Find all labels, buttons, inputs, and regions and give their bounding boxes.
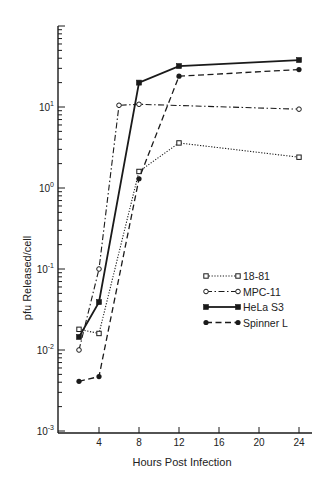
data-point-spinner-l — [176, 74, 181, 79]
y-tick-label: 10-3 — [37, 424, 54, 437]
x-tick-label: 8 — [136, 437, 142, 448]
data-point-hela-s3 — [177, 64, 182, 69]
y-tick-exponent: -3 — [48, 424, 54, 431]
data-point-spinner-l — [96, 374, 101, 379]
y-tick-exponent: -2 — [48, 343, 54, 350]
legend-marker-hela-s3 — [236, 305, 241, 310]
data-point-18-81 — [97, 331, 101, 335]
legend-marker-spinner-l — [235, 320, 240, 325]
data-point-18-81 — [297, 155, 301, 159]
data-point-spinner-l — [76, 379, 81, 384]
data-point-18-81 — [177, 141, 181, 145]
y-tick-base: 10 — [37, 264, 49, 275]
data-point-mpc-11 — [297, 107, 302, 112]
legend-marker-spinner-l — [203, 320, 208, 325]
x-tick-label: 16 — [213, 437, 225, 448]
y-axis-label: pfu Released/cell — [21, 236, 33, 320]
x-ticks: 4812162024 — [96, 427, 305, 448]
legend-marker-mpc-11 — [236, 289, 241, 294]
y-tick-exponent: 1 — [50, 100, 54, 107]
data-point-hela-s3 — [97, 300, 102, 305]
legend-marker-mpc-11 — [204, 289, 209, 294]
legend-marker-18-81 — [236, 274, 240, 278]
y-tick-label: 10-2 — [37, 343, 54, 356]
series-layer — [76, 58, 301, 384]
y-tick-base: 10 — [37, 345, 49, 356]
legend-marker-18-81 — [204, 274, 208, 278]
y-tick-label: 101 — [39, 100, 54, 113]
legend: 18-81MPC-11HeLa S3Spinner L — [203, 270, 288, 329]
y-tick-label: 10-1 — [37, 262, 54, 275]
data-point-18-81 — [77, 327, 81, 331]
y-tick-base: 10 — [37, 426, 49, 437]
legend-label-spinner-l: Spinner L — [243, 317, 288, 329]
legend-item-spinner-l: Spinner L — [203, 317, 288, 329]
series-spinner-l — [76, 67, 301, 384]
legend-marker-hela-s3 — [204, 305, 209, 310]
y-tick-label: 100 — [39, 181, 54, 194]
x-tick-label: 20 — [253, 437, 265, 448]
axes — [58, 26, 312, 433]
legend-item-18-81: 18-81 — [204, 270, 270, 282]
data-point-hela-s3 — [137, 80, 142, 85]
y-tick-exponent: 0 — [50, 181, 54, 188]
data-point-mpc-11 — [77, 348, 82, 353]
legend-label-mpc-11: MPC-11 — [243, 286, 281, 298]
y-ticks: 10110010-110-210-3 — [37, 26, 65, 437]
data-point-hela-s3 — [297, 58, 302, 63]
legend-item-hela-s3: HeLa S3 — [204, 301, 285, 313]
x-tick-label: 4 — [96, 437, 102, 448]
x-tick-label: 12 — [173, 437, 185, 448]
legend-label-18-81: 18-81 — [243, 270, 270, 282]
series-line-spinner-l — [79, 70, 299, 382]
chart: 10110010-110-210-3 4812162024 18-81MPC-1… — [0, 0, 327, 488]
data-point-hela-s3 — [77, 334, 82, 339]
x-axis-label: Hours Post Infection — [132, 456, 231, 468]
legend-label-hela-s3: HeLa S3 — [243, 301, 284, 313]
data-point-mpc-11 — [97, 267, 102, 272]
legend-item-mpc-11: MPC-11 — [204, 286, 281, 298]
y-tick-base: 10 — [39, 183, 51, 194]
data-point-spinner-l — [296, 67, 301, 72]
y-tick-base: 10 — [39, 102, 51, 113]
series-mpc-11 — [77, 102, 302, 352]
data-point-mpc-11 — [137, 102, 142, 107]
y-tick-exponent: -1 — [48, 262, 54, 269]
x-tick-label: 24 — [293, 437, 305, 448]
data-point-mpc-11 — [117, 103, 122, 108]
data-point-18-81 — [137, 169, 141, 173]
data-point-spinner-l — [136, 176, 141, 181]
